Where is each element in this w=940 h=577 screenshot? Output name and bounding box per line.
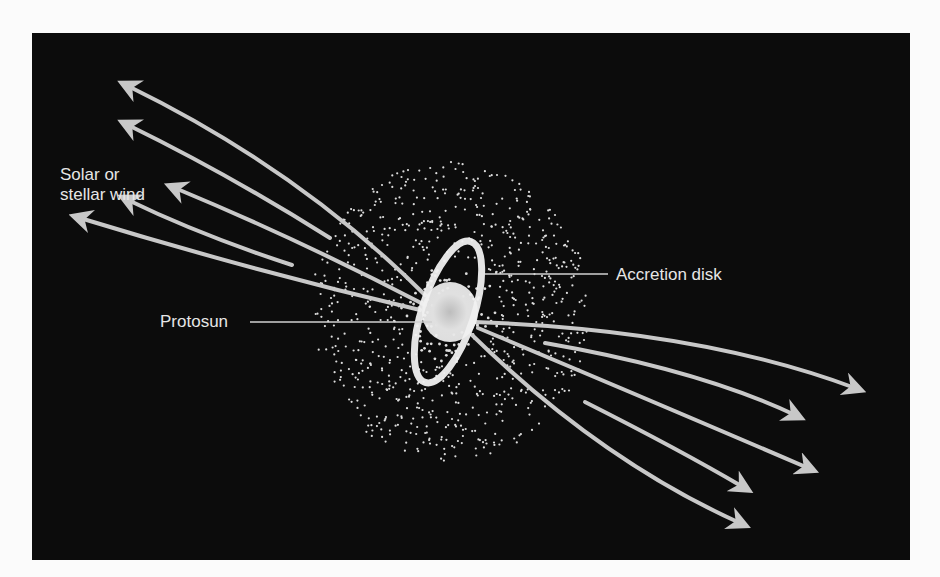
accretion-disk-label: Accretion disk — [616, 265, 722, 285]
wind-label-line1: Solar or — [60, 165, 145, 185]
wind-label-line2: stellar wind — [60, 185, 145, 205]
wind-arrows-right — [472, 322, 855, 523]
protosun-label: Protosun — [160, 312, 228, 332]
wind-label: Solar or stellar wind — [60, 165, 145, 205]
diagram-graphics — [0, 0, 940, 577]
